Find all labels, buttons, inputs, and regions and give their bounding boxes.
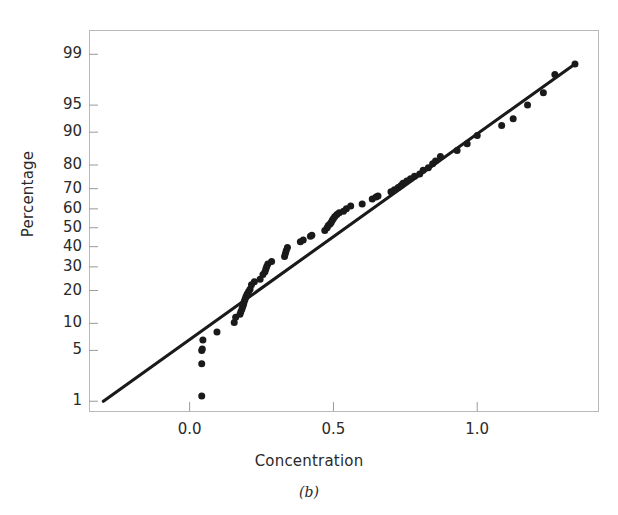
x-tick-label: 1.0 [447, 420, 507, 438]
x-axis-title: Concentration [0, 452, 618, 470]
figure-caption: (b) [0, 484, 618, 500]
x-tick-label: 0.0 [160, 420, 220, 438]
x-tick-label: 0.5 [303, 420, 363, 438]
probability-plot-figure: 151020304050607080909599 0.00.51.0 Perce… [0, 0, 618, 515]
y-axis-title: Percentage [19, 124, 37, 264]
x-axis-tick-labels: 0.00.51.0 [0, 0, 618, 515]
